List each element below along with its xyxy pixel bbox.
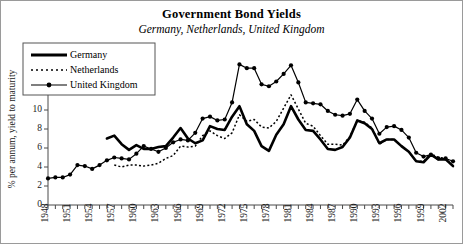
data-point-marker	[75, 163, 79, 167]
data-point-marker	[68, 173, 72, 177]
data-point-marker	[385, 125, 389, 129]
data-point-marker	[326, 109, 330, 113]
data-point-marker	[296, 80, 300, 84]
legend-label: United Kingdom	[70, 79, 138, 90]
x-axis-tick-label: 1954	[84, 203, 94, 222]
x-axis-tick-label: 1981	[283, 203, 293, 222]
data-point-marker	[407, 135, 411, 139]
data-point-marker	[340, 114, 344, 118]
data-point-marker	[223, 117, 227, 121]
data-point-marker	[333, 113, 337, 117]
x-axis-tick-label: 1948	[40, 203, 50, 222]
data-point-marker	[156, 150, 160, 154]
data-point-marker	[377, 132, 381, 136]
data-point-marker	[399, 128, 403, 132]
data-point-marker	[46, 176, 50, 180]
data-point-marker	[370, 116, 374, 120]
data-point-marker	[451, 159, 455, 163]
data-point-marker	[304, 100, 308, 104]
data-point-marker	[208, 115, 212, 119]
data-point-marker	[193, 131, 197, 135]
data-point-marker	[149, 147, 153, 151]
data-point-marker	[83, 164, 87, 168]
data-point-marker	[171, 140, 175, 144]
data-point-marker	[134, 152, 138, 156]
x-axis-tick-label: 1951	[62, 203, 72, 222]
chart-title: Government Bond Yields	[1, 7, 462, 21]
data-point-marker	[318, 102, 322, 106]
data-point-marker	[363, 109, 367, 113]
chart-legend[interactable]: GermanyNetherlandsUnited Kingdom	[23, 43, 155, 95]
data-point-marker	[61, 175, 65, 179]
y-axis-tick-label: 10	[33, 104, 43, 114]
data-point-marker	[112, 155, 116, 159]
y-axis-tick-label: 4	[37, 161, 42, 171]
x-axis-tick-label: 1960	[128, 203, 138, 222]
x-axis-tick-label: 1963	[150, 203, 160, 222]
x-axis-tick-label: 2002	[438, 203, 448, 222]
data-point-marker	[127, 157, 131, 161]
data-point-marker	[267, 84, 271, 88]
data-point-marker	[201, 116, 205, 120]
data-point-marker	[105, 158, 109, 162]
y-axis-tick-label: 8	[37, 123, 42, 133]
data-point-marker	[274, 79, 278, 83]
data-point-marker	[355, 97, 359, 101]
y-axis-tick-label: 2	[37, 180, 42, 190]
data-point-marker	[90, 167, 94, 171]
data-point-marker	[97, 163, 101, 167]
line-chart-svg: 0246810121416194819511954195719601963196…	[1, 41, 464, 245]
chart-figure: Government Bond Yields Germany, Netherla…	[0, 0, 463, 244]
data-point-marker	[53, 175, 57, 179]
data-point-marker	[348, 112, 352, 116]
data-point-marker	[414, 151, 418, 155]
data-point-marker	[164, 146, 168, 150]
series-line-germany	[107, 106, 453, 166]
data-point-marker	[259, 82, 263, 86]
data-point-marker	[245, 66, 249, 70]
chart-subtitle: Germany, Netherlands, United Kingdom	[1, 22, 462, 36]
data-point-marker	[237, 62, 241, 66]
x-axis-tick-label: 1957	[106, 203, 116, 222]
data-point-marker	[142, 144, 146, 148]
x-axis-tick-label: 1999	[416, 203, 426, 222]
y-axis-title: % per annum, yield to maturity	[7, 69, 17, 188]
data-point-marker	[429, 153, 433, 157]
x-axis-tick-label: 1993	[371, 203, 381, 222]
plot-area: 0246810121416194819511954195719601963196…	[1, 41, 464, 245]
x-axis-tick-label: 1990	[349, 203, 359, 222]
x-axis-tick-label: 1978	[261, 203, 271, 222]
x-axis-tick-label: 1972	[217, 203, 227, 222]
x-axis-tick-label: 1975	[239, 203, 249, 222]
data-point-marker	[311, 101, 315, 105]
data-point-marker	[215, 118, 219, 122]
x-axis-tick-label: 1966	[173, 203, 183, 222]
data-point-marker	[421, 154, 425, 158]
data-point-marker	[392, 124, 396, 128]
data-point-marker	[282, 72, 286, 76]
data-point-marker	[186, 138, 190, 142]
data-point-marker	[289, 63, 293, 67]
data-point-marker	[120, 156, 124, 160]
data-point-marker	[178, 137, 182, 141]
data-point-marker	[252, 66, 256, 70]
x-axis-tick-label: 1969	[195, 203, 205, 222]
x-axis-tick-label: 1987	[327, 203, 337, 222]
legend-label: Germany	[70, 49, 107, 60]
legend-label: Netherlands	[70, 64, 118, 75]
x-axis-tick-label: 1996	[393, 203, 403, 222]
data-point-marker	[230, 100, 234, 104]
y-axis-tick-label: 6	[37, 142, 42, 152]
data-point-marker	[444, 156, 448, 160]
legend-marker-icon	[47, 83, 52, 88]
x-axis-tick-label: 1984	[305, 203, 315, 222]
data-point-marker	[436, 156, 440, 160]
